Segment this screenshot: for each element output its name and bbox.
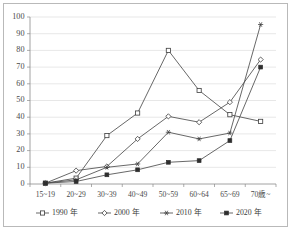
y-tick-label: 10 (16, 162, 24, 171)
gridlines-group (30, 17, 276, 167)
legend-item[interactable]: 2020 年 (220, 207, 262, 217)
y-tick-label: 90 (16, 29, 24, 38)
data-point-marker (105, 133, 109, 137)
data-point-marker (166, 160, 170, 164)
legend-label: 1990 年 (52, 207, 78, 217)
x-tick-marks-group (30, 184, 276, 187)
data-point-marker (227, 131, 232, 136)
x-tick-label: 20~29 (66, 190, 85, 199)
y-tick-label: 30 (16, 129, 24, 138)
data-point-marker (105, 173, 109, 177)
data-point-marker (136, 111, 140, 115)
y-tick-label: 80 (16, 45, 24, 54)
data-point-marker (197, 88, 201, 92)
chart-legend: 1990 年2000 年2010 年2020 年 (36, 207, 262, 217)
data-point-marker (166, 48, 170, 52)
legend-label: 2020 年 (236, 207, 262, 217)
y-tick-label: 70 (16, 62, 24, 71)
y-tick-label: 0 (20, 179, 24, 188)
y-tick-label: 60 (16, 79, 24, 88)
chart-container: 0102030405060708090100 15~1920~2930~3940… (0, 0, 291, 230)
data-point-marker (136, 168, 140, 172)
data-point-marker (197, 137, 202, 142)
data-point-marker (197, 120, 202, 125)
legend-item[interactable]: 2010 年 (160, 207, 202, 217)
data-point-marker (228, 113, 232, 117)
series-line (45, 60, 260, 184)
x-tick-label: 65~69 (220, 190, 239, 199)
series-line (45, 67, 260, 183)
line-chart-plot: 0102030405060708090100 15~1920~2930~3940… (0, 0, 291, 230)
y-tick-marks-group (27, 17, 30, 184)
legend-label: 2000 年 (114, 207, 140, 217)
data-point-marker (258, 22, 263, 27)
y-tick-label: 20 (16, 145, 24, 154)
data-series (43, 48, 262, 185)
data-series-group (43, 22, 263, 186)
x-axis-tick-labels: 15~1920~2930~3940~4950~5960~6465~6970歳~ (36, 189, 271, 199)
data-point-marker (102, 210, 107, 215)
y-tick-label: 50 (16, 95, 24, 104)
y-axis-tick-labels: 0102030405060708090100 (12, 12, 24, 188)
data-point-marker (40, 211, 44, 215)
data-point-marker (43, 181, 47, 185)
data-point-marker (74, 168, 79, 173)
data-point-marker (164, 211, 169, 216)
x-tick-label: 60~64 (189, 190, 208, 199)
x-tick-label: 30~39 (97, 190, 116, 199)
x-tick-label: 50~59 (159, 190, 178, 199)
data-point-marker (74, 180, 78, 184)
x-tick-label: 40~49 (128, 190, 147, 199)
y-tick-label: 100 (12, 12, 24, 21)
y-tick-label: 40 (16, 112, 24, 121)
legend-item[interactable]: 1990 年 (36, 207, 78, 217)
data-point-marker (197, 159, 201, 163)
legend-label: 2010 年 (176, 207, 202, 217)
series-line (45, 25, 260, 184)
data-point-marker (259, 65, 263, 69)
data-point-marker (228, 139, 232, 143)
x-tick-label: 70歳~ (251, 189, 271, 199)
data-point-marker (259, 119, 263, 123)
legend-item[interactable]: 2000 年 (98, 207, 140, 217)
x-tick-label: 15~19 (36, 190, 55, 199)
data-point-marker (225, 211, 229, 215)
